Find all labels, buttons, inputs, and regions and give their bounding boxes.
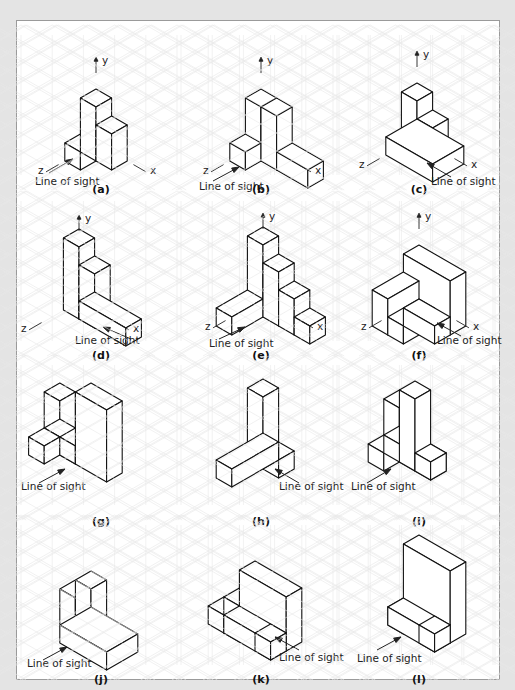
object-outline bbox=[388, 535, 466, 652]
isometric-drawing: Line of sight bbox=[181, 355, 341, 520]
object-outline bbox=[386, 83, 464, 182]
panel-c: yxzLine of sight(c) bbox=[339, 25, 499, 190]
y-axis-label: y bbox=[85, 212, 91, 224]
y-axis-label: y bbox=[425, 210, 431, 222]
isometric-drawing: Line of sight bbox=[181, 515, 341, 680]
object-outline bbox=[60, 571, 138, 670]
object-outline bbox=[368, 381, 446, 480]
line-of-sight-label: Line of sight bbox=[437, 334, 502, 346]
z-axis-label: z bbox=[38, 164, 44, 176]
isometric-drawing: yxzLine of sight bbox=[339, 191, 499, 356]
panel-f: yxzLine of sight(f) bbox=[339, 191, 499, 356]
object-outline bbox=[230, 89, 324, 188]
cropped-header-text bbox=[0, 0, 515, 6]
isometric-drawing: Line of sight bbox=[339, 355, 499, 520]
panel-k: Line of sight(k) bbox=[181, 515, 341, 680]
y-axis-label: y bbox=[269, 210, 275, 222]
line-of-sight-label: Line of sight bbox=[27, 657, 92, 669]
panel-h: Line of sight(h) bbox=[181, 355, 341, 520]
panel-b: yxzLine of sight(b) bbox=[181, 25, 341, 190]
line-of-sight-label: Line of sight bbox=[357, 652, 422, 664]
z-axis-label: z bbox=[21, 322, 27, 334]
y-axis-label: y bbox=[102, 54, 108, 66]
y-axis-label: y bbox=[423, 48, 429, 60]
x-axis-label: x bbox=[471, 158, 477, 170]
x-axis-label: x bbox=[315, 164, 321, 176]
panel-caption: (k) bbox=[181, 673, 341, 686]
line-of-sight-label: Line of sight bbox=[21, 480, 86, 492]
x-axis-label: x bbox=[317, 320, 323, 332]
panel-l: Line of sight(l) bbox=[339, 515, 499, 680]
line-of-sight-label: Line of sight bbox=[351, 480, 416, 492]
panel-caption: (l) bbox=[339, 673, 499, 686]
isometric-drawing: yxzLine of sight bbox=[181, 25, 341, 190]
panel-i: Line of sight(i) bbox=[339, 355, 499, 520]
panel-caption: (j) bbox=[21, 673, 181, 686]
figure-sheet: yxzLine of sight(a)yxzLine of sight(b)yx… bbox=[16, 20, 500, 680]
isometric-drawing: yxzLine of sight bbox=[181, 191, 341, 356]
object-outline bbox=[372, 245, 466, 344]
z-axis-label: z bbox=[361, 320, 367, 332]
line-of-sight-label: Line of sight bbox=[279, 480, 344, 492]
line-of-sight-label: Line of sight bbox=[75, 334, 140, 346]
panel-e: yxzLine of sight(e) bbox=[181, 191, 341, 356]
z-axis-label: z bbox=[359, 158, 365, 170]
x-axis-label: x bbox=[473, 320, 479, 332]
isometric-drawing: yxzLine of sight bbox=[339, 25, 499, 190]
line-of-sight-label: Line of sight bbox=[209, 337, 274, 349]
isometric-drawing: Line of sight bbox=[339, 515, 499, 680]
